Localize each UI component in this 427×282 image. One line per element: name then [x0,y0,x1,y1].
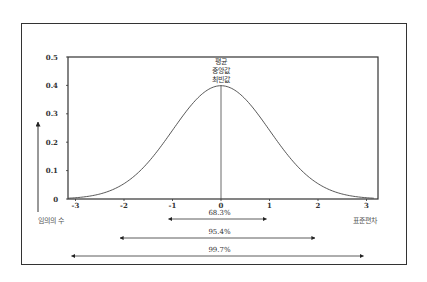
normal-distribution-chart: 00.10.20.30.40.5 -3-2-10123 평균중앙값최빈값 68.… [0,0,427,282]
range-label: 99.7% [208,246,231,254]
center-line: 평균중앙값최빈값 [212,57,231,199]
y-tick-label: 0.5 [46,53,58,62]
y-axis-label: 임의의 수 [38,216,65,225]
y-tick-label: 0.1 [46,166,58,175]
y-tick-label: 0.3 [46,109,58,118]
y-axis-ticks: 00.10.20.30.40.5 [46,53,68,204]
x-tick-label: -2 [120,201,128,210]
y-tick-label: 0.2 [46,138,58,147]
x-tick-label: 1 [267,201,272,210]
x-axis-label: 표준편차 [353,216,378,225]
range-label: 68.3% [208,209,231,217]
y-tick-label: 0 [53,195,58,204]
center-label: 최빈값 [212,75,231,84]
x-tick-label: -3 [72,201,80,210]
x-tick-label: -1 [169,201,177,210]
range-label: 95.4% [208,228,231,236]
sigma-ranges: 68.3%95.4%99.7% [72,209,364,256]
x-tick-label: 3 [364,201,369,210]
center-label: 평균 [215,57,228,66]
x-tick-label: 2 [316,201,321,210]
y-tick-label: 0.4 [46,81,58,90]
center-label: 중앙값 [212,67,231,75]
